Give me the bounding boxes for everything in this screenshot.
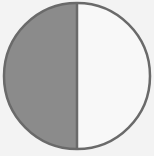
fraction-diagram [0, 0, 154, 156]
unshaded-right-half [77, 3, 150, 149]
shaded-left-half [4, 3, 77, 149]
half-shaded-circle [0, 0, 154, 156]
